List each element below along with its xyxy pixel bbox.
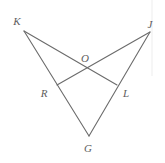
vertex-label-r: R (41, 88, 48, 99)
diagram-canvas (0, 0, 165, 163)
vertex-label-o: O (81, 53, 89, 64)
vertex-label-k: K (13, 16, 20, 27)
segment-group (24, 31, 150, 136)
geometry-diagram: K J O R L G (0, 0, 165, 163)
segment-j-g (89, 32, 150, 136)
vertex-label-j: J (148, 19, 153, 30)
vertex-label-g: G (84, 143, 92, 154)
segment-k-g (24, 31, 89, 136)
vertex-label-l: L (123, 88, 129, 99)
